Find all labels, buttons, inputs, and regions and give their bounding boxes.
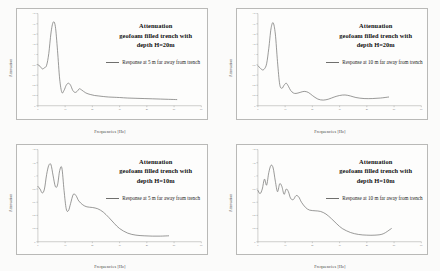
svg-text:0.8: 0.8	[32, 64, 36, 67]
svg-text:1.4: 1.4	[252, 148, 256, 151]
chart-title-block: Attenuation geofoam filled trench with d…	[104, 157, 207, 186]
svg-text:0.6: 0.6	[32, 201, 36, 204]
chart-frame: 010203040506000.20.40.60.811.21.41.61.8 …	[16, 8, 208, 120]
chart-title-line1: Attenuation	[324, 157, 427, 167]
y-axis-label: Attenuation	[229, 59, 233, 77]
chart-title-line1: Attenuation	[104, 157, 207, 167]
svg-text:0: 0	[254, 105, 256, 108]
svg-text:0.2: 0.2	[32, 227, 36, 230]
y-axis-label: Attenuation	[229, 194, 233, 212]
chart-title-line3: depth H=10m	[324, 176, 427, 186]
chart-panel-top-left: 010203040506000.20.40.60.811.21.41.61.8 …	[0, 0, 220, 136]
chart-title-line3: depth H=20m	[324, 40, 427, 50]
svg-text:0.6: 0.6	[32, 74, 36, 77]
svg-text:1.2: 1.2	[252, 43, 256, 46]
chart-panel-bottom-left: 010203040506000.20.40.60.811.21.4 Attenu…	[0, 136, 220, 271]
svg-text:0.2: 0.2	[252, 94, 256, 97]
svg-text:10: 10	[284, 109, 287, 112]
svg-text:30: 30	[118, 109, 121, 112]
svg-text:0.6: 0.6	[252, 74, 256, 77]
svg-text:40: 40	[366, 244, 369, 247]
svg-text:1.6: 1.6	[252, 23, 256, 26]
svg-text:20: 20	[91, 244, 94, 247]
svg-text:0.8: 0.8	[252, 64, 256, 67]
svg-text:20: 20	[91, 109, 94, 112]
svg-text:0.4: 0.4	[252, 84, 256, 87]
svg-text:40: 40	[146, 109, 149, 112]
svg-text:1: 1	[254, 174, 256, 177]
chart-legend: Response at 10 m far away from trench	[326, 59, 425, 66]
chart-frame: 010203040506000.20.40.60.811.21.4 Attenu…	[16, 144, 208, 256]
svg-text:1.8: 1.8	[32, 12, 36, 15]
chart-title-line1: Attenuation	[104, 21, 207, 31]
svg-text:0.8: 0.8	[32, 187, 36, 190]
svg-text:60: 60	[200, 109, 203, 112]
svg-text:50: 50	[173, 109, 176, 112]
chart-title-line2: geofoam filled trench with	[324, 31, 427, 41]
x-axis-label: Frequencies [Hz]	[0, 264, 220, 269]
svg-text:0: 0	[257, 109, 259, 112]
svg-text:60: 60	[420, 244, 423, 247]
legend-label: Response at 5 m far away from trench	[122, 59, 200, 66]
svg-text:1: 1	[254, 53, 256, 56]
x-axis-label: Frequencies [Hz]	[0, 129, 220, 134]
svg-text:60: 60	[200, 244, 203, 247]
svg-text:1.2: 1.2	[252, 161, 256, 164]
legend-line-swatch	[106, 198, 119, 199]
chart-title-block: Attenuation geofoam filled trench with d…	[324, 157, 427, 186]
svg-text:1.4: 1.4	[252, 33, 256, 36]
svg-text:0: 0	[34, 240, 36, 243]
chart-title-block: Attenuation geofoam filled trench with d…	[104, 21, 207, 50]
legend-line-swatch	[326, 62, 339, 63]
svg-text:50: 50	[393, 244, 396, 247]
y-axis-label: Attenuation	[9, 194, 13, 212]
svg-text:40: 40	[146, 244, 149, 247]
svg-text:20: 20	[311, 109, 314, 112]
svg-text:0.4: 0.4	[32, 84, 36, 87]
x-axis-label: Frequencies [Hz]	[220, 264, 440, 269]
svg-text:40: 40	[366, 109, 369, 112]
svg-text:1.2: 1.2	[32, 43, 36, 46]
svg-text:10: 10	[64, 244, 67, 247]
legend-line-swatch	[106, 62, 119, 63]
svg-text:0: 0	[254, 240, 256, 243]
svg-text:20: 20	[311, 244, 314, 247]
chart-frame: 010203040506000.20.40.60.811.21.41.61.8 …	[236, 8, 428, 120]
svg-text:10: 10	[64, 109, 67, 112]
svg-text:10: 10	[284, 244, 287, 247]
svg-text:1: 1	[34, 174, 36, 177]
svg-text:0: 0	[37, 244, 39, 247]
svg-text:0.2: 0.2	[32, 94, 36, 97]
svg-text:30: 30	[338, 244, 341, 247]
legend-label: Response at 5 m far away from trench	[122, 195, 200, 202]
svg-text:1.6: 1.6	[32, 23, 36, 26]
svg-text:60: 60	[420, 109, 423, 112]
chart-title-line3: depth H=20m	[104, 40, 207, 50]
chart-title-block: Attenuation geofoam filled trench with d…	[324, 21, 427, 50]
chart-title-line2: geofoam filled trench with	[324, 166, 427, 176]
svg-text:0.2: 0.2	[252, 227, 256, 230]
legend-line-swatch	[326, 198, 339, 199]
svg-text:0: 0	[37, 109, 39, 112]
svg-text:1.4: 1.4	[32, 148, 36, 151]
svg-text:0: 0	[34, 105, 36, 108]
chart-legend: Response at 5 m far away from trench	[106, 195, 205, 202]
chart-title-line3: depth H=10m	[104, 176, 207, 186]
svg-text:0.4: 0.4	[32, 214, 36, 217]
svg-text:1.4: 1.4	[32, 33, 36, 36]
chart-title-line2: geofoam filled trench with	[104, 31, 207, 41]
chart-panel-bottom-right: 010203040506000.20.40.60.811.21.4 Attenu…	[220, 136, 440, 271]
chart-title-line2: geofoam filled trench with	[104, 166, 207, 176]
svg-text:0.8: 0.8	[252, 187, 256, 190]
figure-grid: 010203040506000.20.40.60.811.21.41.61.8 …	[0, 0, 440, 271]
chart-title-line1: Attenuation	[324, 21, 427, 31]
svg-text:1.8: 1.8	[252, 12, 256, 15]
chart-panel-top-right: 010203040506000.20.40.60.811.21.41.61.8 …	[220, 0, 440, 136]
legend-label: Response at 10 m far away from trench	[342, 59, 422, 66]
svg-text:50: 50	[393, 109, 396, 112]
svg-text:30: 30	[118, 244, 121, 247]
chart-legend: Response at 10 m far away from trench	[326, 195, 425, 202]
svg-text:0.4: 0.4	[252, 214, 256, 217]
svg-text:0: 0	[257, 244, 259, 247]
svg-text:1.2: 1.2	[32, 161, 36, 164]
